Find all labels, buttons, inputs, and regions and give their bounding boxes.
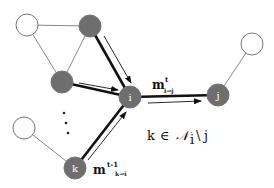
msg-ij-sub: i→j: [164, 87, 173, 95]
set-sub: i: [190, 132, 194, 147]
node-white-right: [241, 33, 263, 55]
msg-ki-sup: t-1: [107, 160, 118, 169]
message-label-i-to-j: m t i→j: [152, 75, 173, 95]
node-gray-middle: [51, 71, 73, 93]
node-white-top-left: [16, 14, 38, 36]
arrow-i-to-j: [148, 101, 201, 103]
edge-i-to-j: [130, 95, 218, 97]
msg-ki-sub: k→i: [115, 170, 127, 177]
node-k-label: k: [72, 163, 79, 174]
graph-nodes: [13, 14, 263, 179]
set-in: ∈: [160, 128, 170, 143]
node-gray-top: [79, 15, 101, 37]
ellipsis-dots: [63, 112, 70, 135]
set-var: k: [147, 128, 155, 143]
message-label-k-to-i: m t-1 k→i: [93, 160, 127, 177]
node-white-bottom-left: [13, 117, 35, 139]
set-minus: \: [196, 128, 201, 143]
edge-k-to-i: [75, 97, 130, 168]
set-condition: k ∈ 𝒩 i \ j: [147, 128, 208, 147]
message-passing-diagram: i j k m t i→j m t-1 k→i k ∈ 𝒩 i \ j: [0, 0, 274, 188]
graph-canvas: i j k m t i→j m t-1 k→i k ∈ 𝒩 i \ j: [0, 0, 274, 188]
set-excluded: j: [202, 128, 208, 143]
node-j-label: j: [215, 90, 219, 101]
msg-ij-sup: t: [165, 75, 169, 84]
arrow-k-to-i: [88, 112, 126, 160]
node-i-label: i: [128, 92, 131, 103]
msg-ki-base: m: [93, 163, 106, 177]
